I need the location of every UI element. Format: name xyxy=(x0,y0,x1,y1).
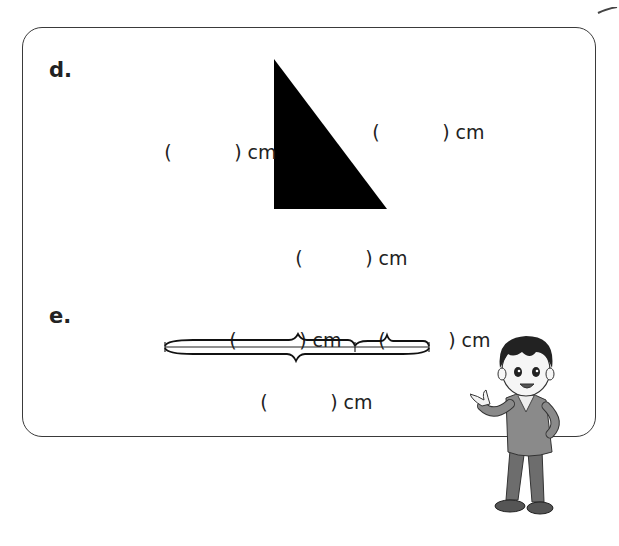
blank-left-side[interactable]: () cm xyxy=(140,119,277,185)
blank-bottom-side[interactable]: () cm xyxy=(271,225,408,291)
page-corner-decoration xyxy=(596,0,619,19)
section-e-label: e. xyxy=(49,304,71,328)
blank-total-length[interactable]: () cm xyxy=(236,369,373,435)
segmented-line-braces xyxy=(163,332,433,366)
section-d-label: d. xyxy=(49,58,72,82)
cartoon-boy-illustration xyxy=(470,330,580,520)
blank-hypotenuse[interactable]: () cm xyxy=(348,99,485,165)
